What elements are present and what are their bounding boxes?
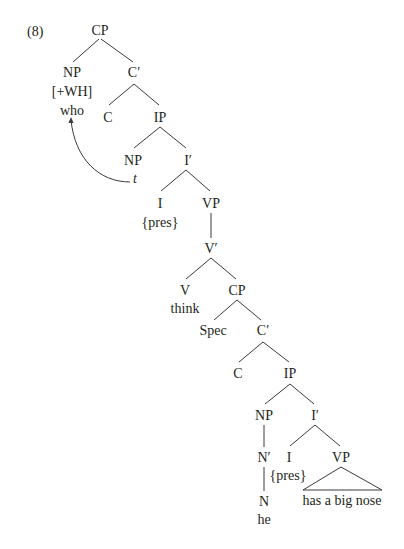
- tree-nodes: CPNP[+WH]whoC′CIPNPtI′I{pres}VPV′VthinkC…: [52, 23, 382, 527]
- node-vp2_yield: has a big nose: [303, 493, 382, 508]
- node-n_word: he: [257, 512, 270, 527]
- node-np1_feat: [+WH]: [52, 84, 93, 99]
- edge-cp1-cbar1: [101, 39, 133, 62]
- node-cp2: CP: [228, 283, 245, 298]
- node-ibar1: I′: [184, 153, 192, 168]
- example-number: (8): [27, 24, 44, 40]
- node-trace: t: [133, 171, 138, 186]
- edge-vbar-cp2: [211, 258, 236, 279]
- node-spec: Spec: [199, 323, 226, 338]
- node-np1: NP: [63, 65, 81, 80]
- edge-cp2-spec: [214, 300, 237, 320]
- edge-ibar1-i1: [161, 170, 186, 191]
- node-i2_feat: {pres}: [270, 468, 307, 483]
- node-np2: NP: [124, 153, 142, 168]
- edge-cbar1-c1: [109, 84, 134, 105]
- node-vp2: VP: [332, 450, 350, 465]
- node-cbar1: C′: [128, 65, 140, 80]
- node-vp1: VP: [202, 196, 220, 211]
- node-i1: I: [158, 196, 163, 211]
- edge-cbar1-ip1: [134, 84, 159, 105]
- edge-cp2-cbar2: [237, 300, 261, 320]
- edge-cp1-np1: [73, 39, 99, 62]
- node-v_word: think: [171, 301, 200, 316]
- syntax-tree-diagram: (8) CPNP[+WH]whoC′CIPNPtI′I{pres}VPV′Vth…: [0, 0, 404, 549]
- node-cp1: CP: [91, 23, 108, 38]
- node-c2: C: [233, 366, 242, 381]
- edge-ibar2-vp2: [315, 425, 340, 446]
- node-ip1: IP: [154, 110, 167, 125]
- edge-ip2-np3: [265, 384, 290, 404]
- node-n: N: [259, 494, 269, 509]
- movement-arrow-curve: [71, 120, 130, 182]
- edge-ibar2-i2: [290, 425, 315, 446]
- node-vbar: V′: [204, 241, 217, 256]
- edge-vbar-v: [186, 258, 211, 279]
- node-np1_word: who: [60, 103, 84, 118]
- node-cbar2: C′: [257, 323, 269, 338]
- node-nbar: N′: [257, 450, 270, 465]
- node-i1_feat: {pres}: [142, 215, 179, 230]
- node-ip2: IP: [284, 366, 297, 381]
- triangle-abbreviation: [303, 467, 382, 490]
- node-v: V: [180, 283, 190, 298]
- vp-triangle: [303, 467, 382, 490]
- tree-edges: [73, 39, 340, 491]
- node-i2: I: [287, 450, 292, 465]
- edge-ibar1-vp1: [186, 170, 210, 191]
- edge-ip1-ibar1: [160, 127, 186, 148]
- node-np3: NP: [255, 408, 273, 423]
- movement-arrow: [69, 117, 131, 182]
- edge-ip1-np2: [134, 127, 160, 148]
- node-c1: C: [103, 110, 112, 125]
- edge-cbar2-ip2: [263, 342, 289, 362]
- node-ibar2: I′: [311, 408, 319, 423]
- edge-ip2-ibar2: [290, 384, 314, 404]
- edge-cbar2-c2: [239, 342, 263, 362]
